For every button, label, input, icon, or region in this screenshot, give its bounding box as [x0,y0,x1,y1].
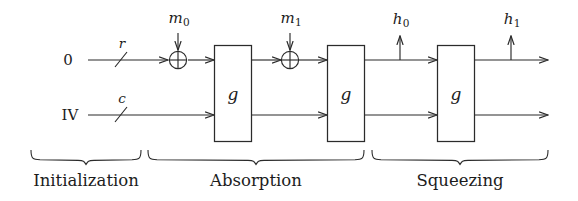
g-box-2-label: g [341,86,352,103]
rate-input-label: 0 [63,53,73,68]
phase-absorption-label: Absorption [210,173,302,190]
g-box-3-label: g [451,86,462,103]
g-box-1-label: g [228,86,239,103]
phase-squeezing-label: Squeezing [416,173,503,190]
xor-gate-0 [169,51,186,68]
h1-base: h [504,10,514,28]
brace-initialization [31,150,141,165]
m1-base: m [281,9,295,27]
h0-label: h0 [393,12,409,27]
rate-width-label: r [119,37,125,51]
m1-label: m1 [281,11,302,26]
h1-subscript: 1 [514,17,521,29]
capacity-width-label: c [118,92,126,106]
h0-base: h [393,10,403,28]
brace-squeezing [372,150,548,165]
capacity-input-label: IV [62,108,79,123]
brace-absorption [148,150,364,165]
sponge-construction-figure: 0 IV r c m0 m1 h0 h1 g g g Initializatio… [0,0,578,201]
xor-gate-1 [281,51,298,68]
h1-label: h1 [504,12,520,27]
phase-initialization-label: Initialization [33,173,139,190]
m0-base: m [169,9,183,27]
m1-subscript: 1 [295,16,302,28]
m0-subscript: 0 [183,16,190,28]
m0-label: m0 [169,11,190,26]
h0-subscript: 0 [403,17,410,29]
